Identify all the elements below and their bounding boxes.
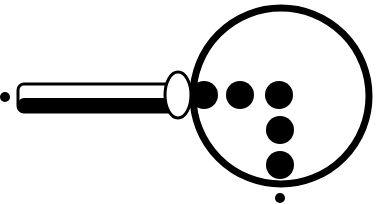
braille-dots — [190, 81, 294, 179]
dot-4 — [266, 116, 294, 144]
small-dot-1 — [0, 92, 10, 102]
handle-ferrule — [165, 72, 191, 118]
handle — [18, 84, 178, 112]
handle-shadow — [18, 98, 178, 112]
dot-1 — [190, 81, 218, 109]
magnifying-glass-icon — [0, 0, 389, 204]
small-dot-2 — [275, 193, 285, 203]
magnifier-diagram: Magnifying glass with braille-like dots — [0, 0, 389, 204]
dot-5 — [266, 151, 294, 179]
dot-2 — [226, 81, 254, 109]
dot-3 — [265, 81, 293, 109]
